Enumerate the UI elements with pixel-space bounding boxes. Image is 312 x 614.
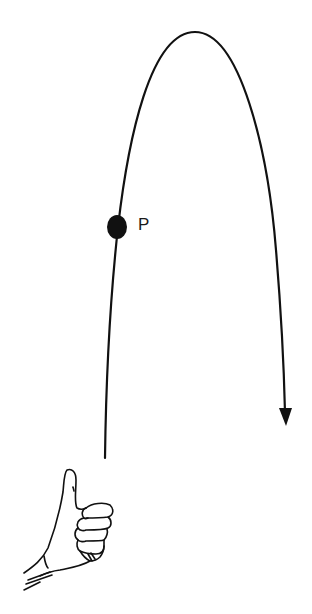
trajectory-path [105,32,285,458]
projectile-diagram [0,0,312,614]
ball-at-p [107,215,127,239]
point-p-label: P [138,216,149,233]
hand-icon [24,469,113,590]
arrowhead-icon [279,408,292,426]
